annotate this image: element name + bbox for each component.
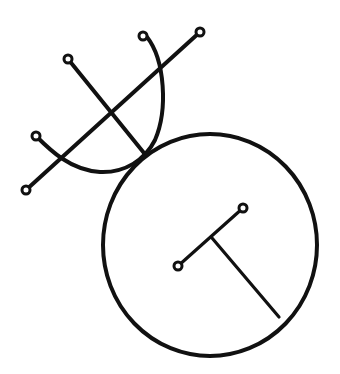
inner-segment: [178, 208, 243, 266]
diagram-canvas: [0, 0, 340, 374]
long-diagonal-line: [26, 32, 200, 190]
endpoint-node-icon: [32, 132, 40, 140]
endpoint-node-icon: [174, 262, 182, 270]
endpoint-node-icon: [22, 186, 30, 194]
endpoint-node-icon: [64, 55, 72, 63]
endpoint-node-icon: [239, 204, 247, 212]
endpoint-node-icon: [139, 32, 147, 40]
large-circle: [103, 134, 317, 356]
endpoint-node-icon: [196, 28, 204, 36]
inner-stem: [212, 238, 279, 317]
